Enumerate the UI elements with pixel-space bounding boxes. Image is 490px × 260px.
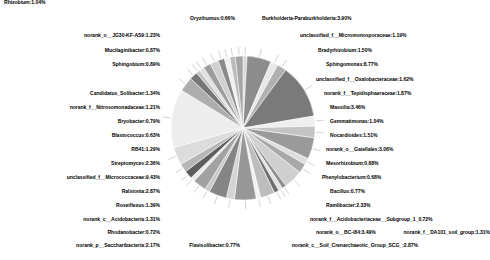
leader-line: [176, 169, 183, 173]
leader-line: [308, 162, 315, 166]
leader-line: [294, 180, 300, 186]
pie-label-streptomyces: Streptomyces:2.36%: [4, 161, 160, 166]
leader-line: [211, 54, 214, 61]
pie-label-oryzihumus: Oryzihumus:0.66%: [155, 16, 270, 21]
leader-line: [259, 199, 261, 207]
leader-line: [168, 157, 175, 160]
leader-line: [281, 190, 285, 197]
pie-label-tepidisphaeraceae: norank_f__Tepidisphaeraceae:1.87%: [324, 91, 490, 96]
pie-label-phenylobacterium: Phenylobacterium:0.68%: [322, 175, 490, 180]
pie-label-micrococcaceae: unclassified_f__Micrococcaceae:9.43%: [2, 175, 160, 180]
leader-line: [305, 86, 312, 90]
pie-label-sphingomonas: Sphingomonas:8.77%: [326, 62, 490, 67]
pie-chart-figure: Oryzihumus:0.66% norank_o__JG30-KF-AS9:1…: [0, 0, 490, 260]
leader-line: [179, 79, 185, 84]
leader-line: [285, 188, 290, 195]
pie-label-acidobacteria: norank_c__Acidobacteria:1.31%: [4, 217, 160, 222]
leader-line: [187, 69, 193, 75]
leader-line: [163, 117, 171, 118]
leader-line: [186, 180, 192, 186]
leader-line: [239, 47, 240, 55]
pie-label-bc-i84: norank_o__BC-i84:3.49%: [316, 230, 490, 235]
pie-label-bryobacter: Bryobacter:0.79%: [4, 119, 160, 124]
leader-line: [203, 191, 207, 198]
leader-line: [277, 193, 281, 200]
leader-line: [260, 49, 262, 57]
leader-line: [229, 200, 231, 208]
pie-label-blastococcus: Blastococcus:0.63%: [4, 133, 160, 138]
leader-line: [181, 175, 187, 180]
pie-label-rb41: RB41:1.29%: [4, 147, 160, 152]
leader-line: [231, 48, 232, 56]
pie-label-sphingobium: Sphingobium:0.89%: [4, 62, 160, 67]
pie-label-ramlibacter: Ramlibacter:2.33%: [326, 203, 490, 208]
pie-label-mucilaginibacter: Mucilaginibacter:0.87%: [4, 48, 160, 53]
pie-label-oxalobacteraceae: unclassified_f__Oxalobacteraceae:1.62%: [316, 77, 490, 82]
pie-label-gaiellales: norank_o__Gaiellales:3.06%: [326, 147, 490, 152]
leader-line: [225, 49, 227, 57]
pie-label-nocardioides: Nocardioides:1.51%: [330, 133, 490, 138]
leader-line: [197, 62, 202, 69]
pie-label-acidobacteriaceae-subgroup1: norank_f__Acidobacteriaceae__Subgroup_1_…: [310, 217, 490, 222]
pie-label-mesorhizobium: Mesorhizobium:0.68%: [326, 161, 490, 166]
pie-label-ralstonia: Ralstonia:2.87%: [4, 189, 160, 194]
pie-slice-group: [171, 56, 315, 200]
leader-line: [194, 186, 199, 192]
pie-label-massilia: Massilia:3.46%: [330, 105, 490, 110]
pie-label-bacillus: Bacillus:0.77%: [330, 189, 490, 194]
leader-line: [219, 51, 221, 59]
leader-line: [316, 120, 324, 121]
pie-label-gemmatimonas: Gemmatimonas:1.04%: [330, 119, 490, 124]
pie-label-rhizobium: Rhizobium:1.04%: [4, 0, 45, 5]
pie-label-jg30: norank_o__JG30-KF-AS9:1.23%: [4, 33, 160, 38]
leader-line: [275, 55, 278, 62]
pie-label-rhodanobacter: Rhodanobacter:0.72%: [4, 230, 160, 235]
leader-line: [303, 169, 310, 174]
pie-label-micromonosporaceae: unclassified_f__Micromonosporaceae:1.19%: [300, 33, 490, 38]
leader-line: [193, 65, 198, 71]
pie-label-scg: norank_c__Soil_Crenarchaeotic_Group_SCG_…: [248, 243, 418, 248]
leader-line: [268, 197, 271, 205]
pie-label-burkholderia: Burkholderia-Paraburkholderia:3.90%: [262, 16, 490, 21]
pie-label-bradyrhizobium: Bradyrhizobium:1.50%: [318, 48, 490, 53]
pie-label-candidatus-solibacter: Candidatus_Solibacter:1.34%: [4, 91, 160, 96]
leader-line: [214, 196, 217, 204]
pie-label-nitrosomonadaceae: norank_f__Nitrosomonadaceae:1.21%: [4, 105, 160, 110]
leader-line: [282, 60, 286, 67]
pie-label-roseiflexus: Roseiflexus:1.39%: [4, 203, 160, 208]
leader-line: [203, 58, 207, 65]
pie-label-flavisolibacter: Flavisolibacter:0.77%: [130, 243, 240, 248]
leader-line: [313, 149, 321, 151]
